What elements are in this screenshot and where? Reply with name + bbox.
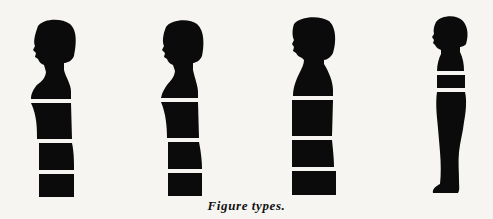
figure-caption: Figure types. (0, 198, 493, 214)
figure-4-silhouette (432, 16, 468, 193)
figure-2-silhouette (161, 20, 203, 196)
figure-1-silhouette (31, 20, 76, 197)
figure-types-illustration (0, 0, 493, 219)
figure-3-silhouette (292, 17, 336, 195)
